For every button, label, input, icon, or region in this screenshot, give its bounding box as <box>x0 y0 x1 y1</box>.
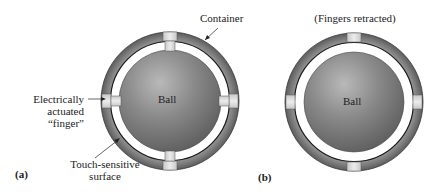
finger-right-retracted <box>413 95 422 109</box>
container-label: Container <box>200 12 243 24</box>
finger-top-retracted <box>347 33 361 42</box>
panel-label-b: (b) <box>258 171 271 183</box>
touch-surface-leader-line <box>95 140 118 158</box>
finger-right <box>219 94 238 108</box>
finger-label-line2: actuated <box>20 105 84 117</box>
touch-surface-label-line2: surface <box>50 170 160 182</box>
finger-bottom <box>163 151 177 170</box>
finger-bottom-retracted <box>347 162 361 171</box>
finger-left <box>102 94 121 108</box>
finger-label-line1: Electrically <box>20 93 84 105</box>
panel-label-a: (a) <box>15 168 28 180</box>
finger-top <box>163 32 177 51</box>
touch-surface-label-line1: Touch-sensitive <box>50 158 160 170</box>
finger-left-retracted <box>286 95 295 109</box>
ball-label-b: Ball <box>343 95 361 107</box>
fingers-retracted-title: (Fingers retracted) <box>300 12 410 24</box>
ball-label-a: Ball <box>158 93 176 105</box>
finger-label-line3: “finger” <box>20 117 84 129</box>
